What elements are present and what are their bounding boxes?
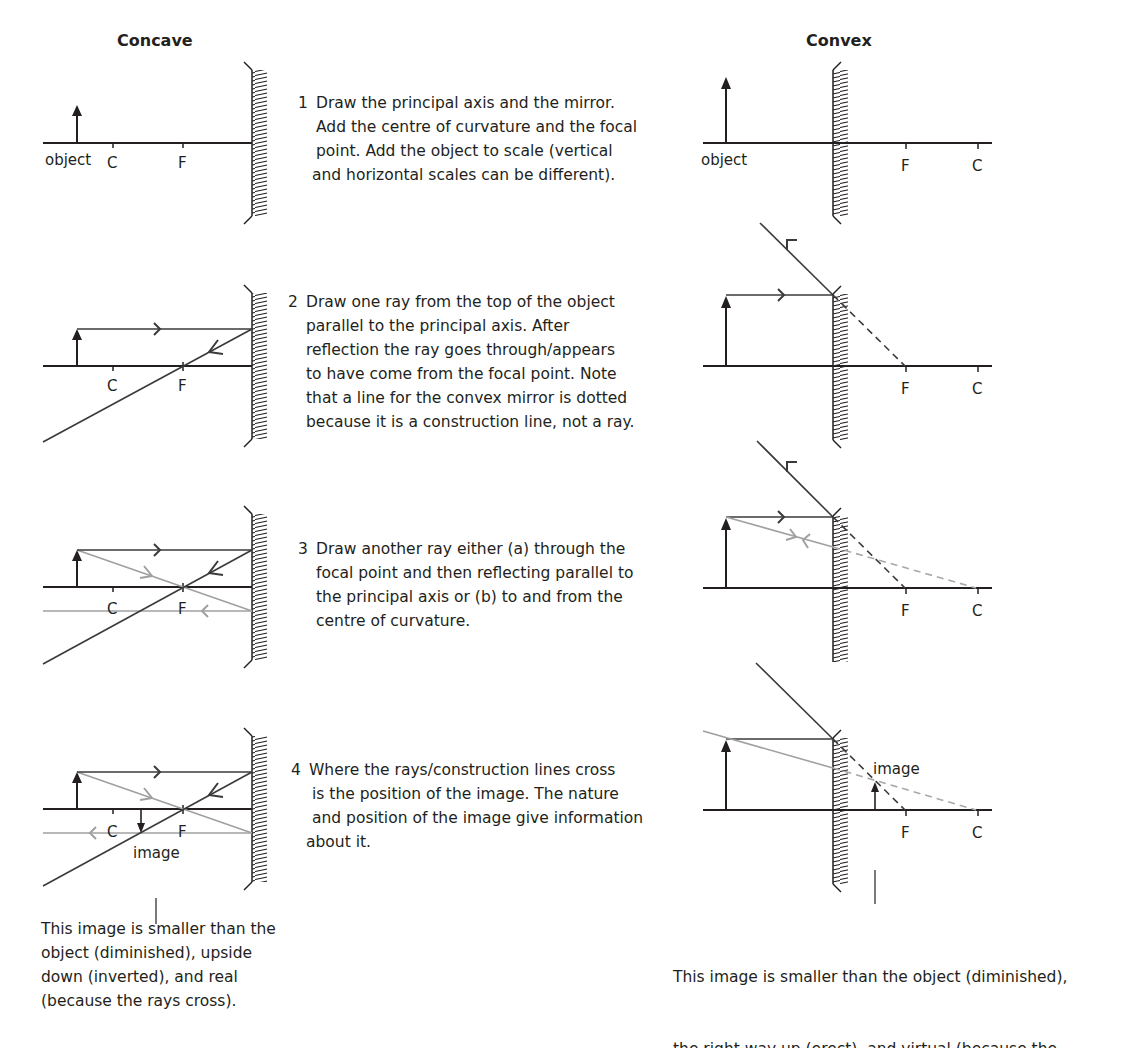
object-arrow-icon xyxy=(72,772,82,809)
convex-mirror-1 xyxy=(833,62,848,224)
convex-panel-1: object F C xyxy=(701,62,992,224)
caption-line: object (diminished), upside xyxy=(41,941,276,965)
object-arrow-icon xyxy=(721,77,731,143)
image-arrow-icon xyxy=(871,782,879,810)
step-line: point. Add the object to scale (vertical xyxy=(316,139,637,163)
convex-panel-3: F C xyxy=(703,441,992,662)
svg-text:C: C xyxy=(107,823,117,841)
object-arrow-icon xyxy=(721,518,731,588)
image-label: image xyxy=(133,844,180,862)
svg-text:F: F xyxy=(901,602,910,620)
svg-text:F: F xyxy=(901,824,910,842)
svg-text:F: F xyxy=(178,600,187,618)
svg-text:F: F xyxy=(178,823,187,841)
object-arrow-icon xyxy=(72,329,82,366)
convex-mirror-3 xyxy=(833,508,848,662)
step-line: Draw one ray from the top of the object xyxy=(306,290,634,314)
step-line: about it. xyxy=(306,830,643,854)
svg-text:C: C xyxy=(107,377,117,395)
caption-line: (because the rays cross). xyxy=(41,989,276,1013)
step-line: the principal axis or (b) to and from th… xyxy=(316,585,633,609)
image-label: image xyxy=(873,760,920,778)
step-line: that a line for the convex mirror is dot… xyxy=(306,386,634,410)
concave-caption: This image is smaller than the object (d… xyxy=(41,917,276,1013)
svg-text:F: F xyxy=(901,380,910,398)
svg-text:C: C xyxy=(972,380,982,398)
convex-panel-2: F C xyxy=(703,223,992,448)
step-number: 1 xyxy=(298,91,308,115)
svg-text:object: object xyxy=(701,151,747,169)
step-line: reflection the ray goes through/appears xyxy=(306,338,634,362)
step-number: 2 xyxy=(288,290,298,314)
object-arrow-icon xyxy=(721,296,731,366)
svg-text:C: C xyxy=(107,600,117,618)
step-line: and position of the image give informati… xyxy=(312,806,643,830)
svg-text:C: C xyxy=(972,157,982,175)
step-line: because it is a construction line, not a… xyxy=(306,410,634,434)
step-line: parallel to the principal axis. After xyxy=(306,314,634,338)
caption-line: This image is smaller than the object (d… xyxy=(673,965,1067,989)
reflected-ray xyxy=(43,329,252,442)
step-line: is the position of the image. The nature xyxy=(312,782,643,806)
convex-mirror-2 xyxy=(833,286,848,448)
object-arrow-icon xyxy=(72,105,82,143)
step-line: focal point and then reflecting parallel… xyxy=(316,561,633,585)
concave-panel-1: object C F xyxy=(43,62,267,224)
step-number: 4 xyxy=(291,758,301,782)
step-line: and horizontal scales can be different). xyxy=(312,163,637,187)
c-label: C xyxy=(107,154,117,172)
svg-text:C: C xyxy=(972,824,982,842)
focal-ray xyxy=(77,550,252,611)
convex-mirror-4 xyxy=(833,730,848,892)
caption-line: This image is smaller than the xyxy=(41,917,276,941)
image-arrow-icon xyxy=(137,809,145,833)
step-line: centre of curvature. xyxy=(316,609,633,633)
f-label: F xyxy=(178,154,187,172)
concave-panel-3: C F xyxy=(43,506,267,668)
svg-text:C: C xyxy=(972,602,982,620)
step-line: Add the centre of curvature and the foca… xyxy=(316,115,637,139)
concave-panel-2: C F xyxy=(43,285,267,447)
object-label: object xyxy=(45,151,91,169)
svg-text:F: F xyxy=(178,377,187,395)
step-number: 3 xyxy=(298,537,308,561)
ray-direction-arrow xyxy=(209,340,223,354)
step-line: Draw another ray either (a) through the xyxy=(316,537,633,561)
caption-line: down (inverted), and real xyxy=(41,965,276,989)
object-arrow-icon xyxy=(72,550,82,587)
caption-line: the right way up (erect), and virtual (b… xyxy=(673,1037,1067,1048)
concave-panel-4: C F image xyxy=(43,728,267,924)
step-line: Draw the principal axis and the mirror. xyxy=(316,91,637,115)
svg-text:F: F xyxy=(901,157,910,175)
step-line: Where the rays/construction lines cross xyxy=(309,758,643,782)
step-line: to have come from the focal point. Note xyxy=(306,362,634,386)
object-arrow-icon xyxy=(721,740,731,810)
convex-caption: This image is smaller than the object (d… xyxy=(673,917,1067,1048)
convex-panel-4: image F C xyxy=(703,663,992,904)
